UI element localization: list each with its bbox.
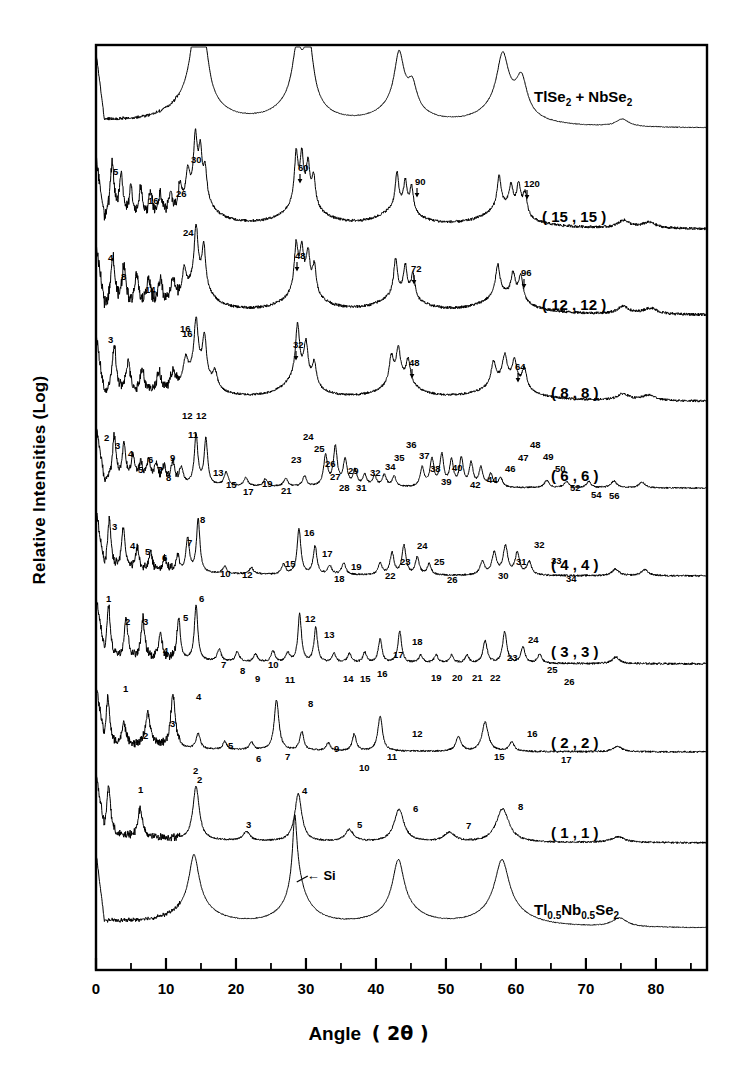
peak-label: 64 xyxy=(515,362,526,372)
peak-label: 16 xyxy=(148,196,159,206)
peak-label: 23 xyxy=(507,653,518,663)
peak-label: 42 xyxy=(470,480,481,490)
peak-label: 22 xyxy=(490,673,501,683)
peak-label: 6 xyxy=(199,594,204,604)
peak-label: 21 xyxy=(472,673,483,683)
peak-label: 28 xyxy=(339,483,350,493)
peak-label: 6 xyxy=(413,804,418,814)
peak-label: 26 xyxy=(564,677,575,687)
peak-label: 13 xyxy=(213,468,224,478)
peak-marker-arrowhead xyxy=(295,267,300,272)
peak-label: 7 xyxy=(285,752,290,762)
peak-label: 2 xyxy=(104,433,109,443)
peak-label: 50 xyxy=(555,464,566,474)
peak-label: 11 xyxy=(387,752,397,762)
peak-label: 7 xyxy=(187,538,192,548)
peak-label: 5 xyxy=(138,465,143,475)
peak-label: 3 xyxy=(246,820,251,830)
peak-label: 10 xyxy=(220,569,231,579)
peak-label: 24 xyxy=(183,228,194,238)
peak-label: 16 xyxy=(304,528,315,538)
peak-marker-arrowhead xyxy=(516,378,521,383)
peak-label: 10 xyxy=(268,660,279,670)
peak-label: 15 xyxy=(226,480,237,490)
peak-label: 14 xyxy=(343,674,354,684)
x-tick-label-10: 10 xyxy=(146,980,186,997)
peak-label: 90 xyxy=(415,177,426,187)
peak-label: 31 xyxy=(356,483,367,493)
peak-label: 39 xyxy=(441,477,452,487)
peak-label: 4 xyxy=(163,646,168,656)
peak-marker-arrowhead xyxy=(522,284,527,289)
peak-label: 1 xyxy=(123,684,128,694)
peak-label: 54 xyxy=(591,490,602,500)
peak-label: 25 xyxy=(434,557,445,567)
peak-label: 17 xyxy=(322,549,333,559)
trace-1515 xyxy=(96,129,707,230)
peak-label: 5 xyxy=(113,167,118,177)
peak-label: 120 xyxy=(524,179,540,189)
peak-label: 24 xyxy=(303,432,314,442)
peak-label: 12 xyxy=(196,411,207,421)
x-tick-label-30: 30 xyxy=(286,980,326,997)
peak-label: 13 xyxy=(324,630,335,640)
xrd-plot-svg xyxy=(0,0,737,1084)
peak-label: 2 xyxy=(197,775,202,785)
peak-label: 9 xyxy=(334,744,339,754)
peak-label: 44 xyxy=(487,475,498,485)
peak-label: 26 xyxy=(447,575,458,585)
peak-label: 23 xyxy=(291,455,302,465)
x-tick-label-50: 50 xyxy=(426,980,466,997)
peak-label: 15 xyxy=(285,559,296,569)
peak-label: 8 xyxy=(200,515,205,525)
peak-label: 40 xyxy=(452,463,463,473)
trace-22 xyxy=(96,682,707,753)
peak-label: 36 xyxy=(406,440,417,450)
y-axis-label: Relative Intensities (Log) xyxy=(30,280,50,680)
x-tick-label-20: 20 xyxy=(216,980,256,997)
peak-label: 2 xyxy=(193,766,198,776)
peak-marker-arrowhead xyxy=(412,280,417,285)
peak-label: 8 xyxy=(308,699,313,709)
peak-label: 38 xyxy=(430,464,441,474)
peak-label: 34 xyxy=(566,574,577,584)
peak-label: 32 xyxy=(370,468,381,478)
peak-label: 49 xyxy=(543,452,554,462)
peak-label: 6 xyxy=(162,553,167,563)
trace-label-TlSe2NbSe2: TlSe2 + NbSe2 xyxy=(534,88,632,108)
peak-label: 46 xyxy=(505,464,516,474)
peak-label: 5 xyxy=(183,613,188,623)
peak-label: 4 xyxy=(130,541,135,551)
trace-label-88: ( 8 , 8 ) xyxy=(551,384,599,401)
peak-label: 8 xyxy=(518,802,523,812)
peak-label: 2 xyxy=(125,617,130,627)
peak-label: 17 xyxy=(243,487,254,497)
peak-label: 4 xyxy=(196,692,201,702)
peak-label: 27 xyxy=(330,472,341,482)
peak-label: 6 xyxy=(256,754,261,764)
peak-label: 16 xyxy=(180,324,191,334)
peak-label: 72 xyxy=(411,264,422,274)
x-axis-label: Angle ( 2θ ) xyxy=(0,1022,737,1045)
peak-label: 9 xyxy=(170,453,175,463)
peak-label: 17 xyxy=(393,650,404,660)
peak-label: 52 xyxy=(570,483,581,493)
si-annotation-label: ← Si xyxy=(307,868,336,883)
peak-label: 14 xyxy=(145,285,156,295)
peak-label: 19 xyxy=(262,479,273,489)
peak-label: 8 xyxy=(240,666,245,676)
peak-label: 56 xyxy=(609,491,620,501)
x-tick-label-70: 70 xyxy=(566,980,606,997)
peak-label: 16 xyxy=(377,669,388,679)
peak-label: 3 xyxy=(108,335,113,345)
peak-label: 15 xyxy=(494,752,505,762)
peak-label: 1 xyxy=(106,594,111,604)
peak-label: 15 xyxy=(360,674,371,684)
peak-label: 7 xyxy=(466,821,471,831)
peak-label: 10 xyxy=(359,763,370,773)
x-tick-label-40: 40 xyxy=(356,980,396,997)
trace-label-11: ( 1 , 1 ) xyxy=(551,824,599,841)
peak-label: 60 xyxy=(298,163,309,173)
trace-11 xyxy=(96,771,707,844)
peak-label: 34 xyxy=(385,462,396,472)
